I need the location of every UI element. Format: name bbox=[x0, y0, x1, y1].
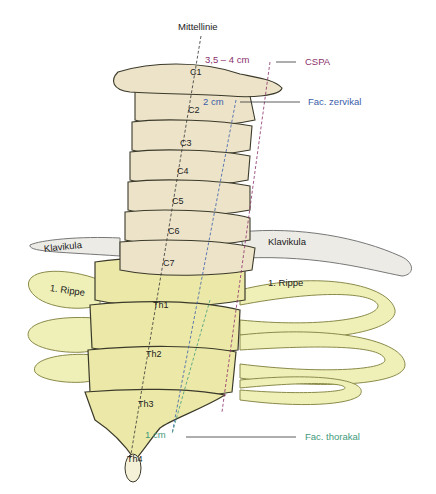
vertebra-c4: C4 bbox=[177, 167, 189, 176]
vertebra-c7: C7 bbox=[163, 259, 175, 268]
vertebra-c3: C3 bbox=[180, 139, 192, 148]
vertebra-c2: C2 bbox=[188, 106, 200, 115]
midline-label: Mittellinie bbox=[178, 22, 218, 32]
vertebra-th3: Th3 bbox=[138, 400, 154, 409]
vertebra-th2: Th2 bbox=[146, 350, 162, 359]
rib-right-label: 1. Rippe bbox=[268, 278, 303, 288]
vertebra-th1: Th1 bbox=[153, 301, 169, 310]
clavicle-right-label: Klavikula bbox=[268, 237, 306, 247]
clavicle-right bbox=[240, 230, 412, 276]
thorakal-distance: 1 cm bbox=[145, 430, 166, 440]
vertebra-c1: C1 bbox=[190, 68, 202, 77]
thorakal-label: Fac. thorakal bbox=[305, 432, 360, 442]
cspa-distance: 3,5 – 4 cm bbox=[205, 55, 249, 65]
ribs-right bbox=[240, 281, 405, 405]
vertebra-c6: C6 bbox=[168, 227, 180, 236]
cspa-label: CSPA bbox=[305, 57, 330, 67]
zervikal-label: Fac. zervikal bbox=[308, 97, 361, 107]
vertebra-c5: C5 bbox=[172, 197, 184, 206]
vertebra-th4: Th4 bbox=[127, 455, 143, 464]
zervikal-distance: 2 cm bbox=[203, 97, 224, 107]
